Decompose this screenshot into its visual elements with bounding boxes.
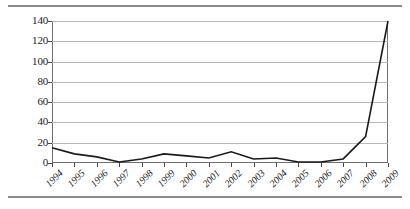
y-axis-tick-label-text: 40 [4,116,48,127]
x-axis-tick [119,163,120,167]
x-axis-tick [366,163,367,167]
gridline [52,62,388,63]
y-axis-tick [48,102,52,103]
x-axis-tick [164,163,165,167]
y-axis-tick-label-text: 120 [4,35,48,46]
y-axis-tick-label-text: 60 [4,96,48,107]
x-axis-tick [343,163,344,167]
y-axis-tick-label-text: 140 [4,15,48,26]
x-axis-tick [254,163,255,167]
y-axis-tick-label: 0 [0,157,48,168]
x-axis-tick [74,163,75,167]
line-chart: 020406080100120140 199419951996199719981… [0,0,410,209]
y-axis-tick [48,41,52,42]
x-axis-tick [298,163,299,167]
y-axis-tick-label: 60 [0,96,48,107]
y-axis-tick-label: 140 [0,15,48,26]
x-axis-tick [321,163,322,167]
gridline [52,41,388,42]
x-axis-tick [209,163,210,167]
x-axis-tick [52,163,53,167]
x-axis-tick [231,163,232,167]
y-axis-tick [48,21,52,22]
x-axis-tick [186,163,187,167]
x-axis-tick [97,163,98,167]
y-axis-tick [48,122,52,123]
y-axis-tick-label: 100 [0,56,48,67]
gridline [52,21,388,22]
gridline [52,102,388,103]
y-axis-tick-label-text: 20 [4,137,48,148]
y-axis-tick-label-text: 0 [4,157,48,168]
y-axis-tick-label: 40 [0,116,48,127]
x-axis-tick [388,163,389,167]
y-axis-tick [48,62,52,63]
y-axis-tick-label: 20 [0,137,48,148]
gridline [52,143,388,144]
y-axis-tick-label-text: 80 [4,76,48,87]
figure-container: 020406080100120140 199419951996199719981… [0,0,410,209]
y-axis-tick-label: 80 [0,76,48,87]
y-axis-tick-label-text: 100 [4,56,48,67]
x-axis-tick [276,163,277,167]
y-axis-tick [48,143,52,144]
y-axis-tick-label: 120 [0,35,48,46]
x-axis-tick [142,163,143,167]
gridline [52,82,388,83]
y-axis-tick [48,82,52,83]
plot-area-frame [52,21,388,163]
gridline [52,122,388,123]
